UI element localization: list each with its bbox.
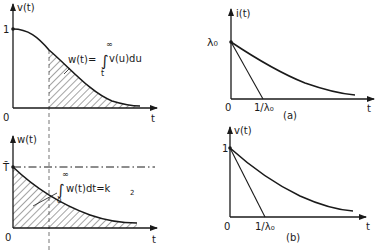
- origin-label: 0: [225, 102, 231, 113]
- start-point: [229, 40, 233, 44]
- tangent-line: [231, 42, 263, 99]
- caption-b: (b): [286, 232, 300, 243]
- annotation-w-def: w(t)=: [68, 54, 96, 65]
- start-point: [11, 165, 15, 169]
- origin-label: 0: [3, 112, 9, 123]
- start-point: [11, 27, 15, 31]
- x-tick-inv-lambda0: 1/λ₀: [254, 102, 274, 113]
- integrand: w(t)dt=k: [66, 183, 111, 194]
- x-axis-label: t: [366, 221, 370, 232]
- v-curve: [230, 148, 353, 211]
- panel-top-right-a: i(t) λ₀ 0 1/λ₀ t (a): [207, 8, 374, 121]
- caption-a: (a): [283, 110, 297, 121]
- x-axis-label: t: [152, 234, 156, 245]
- integral-upper: ∞: [106, 40, 113, 49]
- y-axis-label: w(t): [17, 134, 37, 145]
- x-axis-label: t: [367, 103, 371, 114]
- x-axis-label: t: [151, 113, 155, 124]
- integral-upper: ∞: [62, 170, 69, 179]
- integral-lower: 0: [57, 197, 61, 205]
- integral-sign: ∫: [101, 52, 109, 70]
- origin-label: 0: [224, 221, 230, 232]
- figure-canvas: v(t) 1 0 t w(t)= ∫ ∞ t v(u)du w(t) T̄ 0 …: [0, 0, 376, 251]
- start-point: [228, 146, 232, 150]
- panel-bottom-left: w(t) T̄ 0 t ∫ ∞ 0 w(t)dt=k 2: [2, 134, 157, 245]
- i-curve: [231, 42, 355, 95]
- y-axis-label: i(t): [236, 8, 251, 19]
- y-tick-tbar: T̄: [2, 161, 10, 173]
- origin-label: 0: [5, 232, 11, 243]
- integral-lower: t: [101, 69, 104, 78]
- y-tick-1: 1: [222, 143, 228, 154]
- panel-bottom-right-b: v(t) 1 0 1/λ₀ t (b): [222, 125, 370, 243]
- x-tick-inv-lambda0: 1/λ₀: [255, 221, 275, 232]
- y-axis-label: v(t): [234, 125, 252, 136]
- tangent-line: [230, 148, 265, 217]
- integrand: v(u)du: [109, 53, 142, 64]
- hatched-area-k2: [13, 167, 137, 228]
- y-axis-label: v(t): [17, 2, 35, 13]
- y-tick-lambda0: λ₀: [207, 36, 219, 49]
- integrand-subscript: 2: [130, 189, 134, 197]
- y-tick-1: 1: [3, 24, 9, 35]
